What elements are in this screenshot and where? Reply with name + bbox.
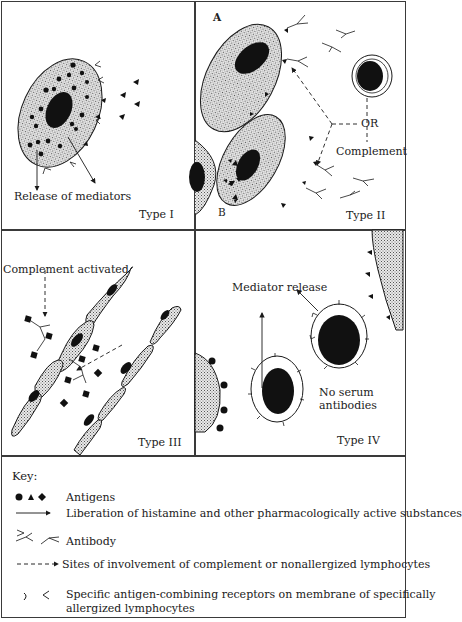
type-2-label-a: A — [213, 11, 221, 24]
type-2-label: Type II — [346, 209, 385, 222]
key-receptors-label: Specific antigen-combining receptors on … — [66, 588, 436, 601]
key-title: Key: — [12, 469, 37, 483]
type-2-antibodies — [287, 15, 374, 199]
key-receptors-label-line2: allergized lymphocytes — [66, 602, 195, 615]
type-2-or-label: OR — [361, 117, 378, 130]
type-2-target-cells — [184, 11, 392, 217]
type-1-label: Type I — [139, 208, 174, 221]
key-liberation-label: Liberation of histamine and other pharma… — [66, 507, 462, 520]
type-3-vessel-cells — [12, 267, 181, 455]
type-4-mediator-release-label: Mediator release — [232, 281, 327, 294]
type-2-complement-label: Complement — [336, 145, 407, 158]
type-1-release-of-mediators-label: Release of mediators — [14, 190, 131, 203]
key-sites-label: Sites of involvement of complement or no… — [62, 558, 430, 571]
type-2-lymphocyte — [352, 55, 392, 97]
type-1-mast-cell — [1, 45, 140, 190]
key-antibody-label: Antibody — [66, 535, 116, 548]
key-symbols — [16, 493, 60, 600]
type-3-complement-activated-label: Complement activated — [3, 263, 129, 276]
type-3-label: Type III — [138, 436, 182, 449]
type-2-label-b: B — [218, 206, 226, 219]
type-4-label: Type IV — [337, 434, 380, 447]
type-1-free-antigens — [119, 79, 140, 120]
type-4-antibodies-label: antibodies — [319, 399, 377, 412]
key-antigens-label: Antigens — [66, 491, 115, 504]
type-4-no-serum-label: No serum — [319, 386, 374, 399]
